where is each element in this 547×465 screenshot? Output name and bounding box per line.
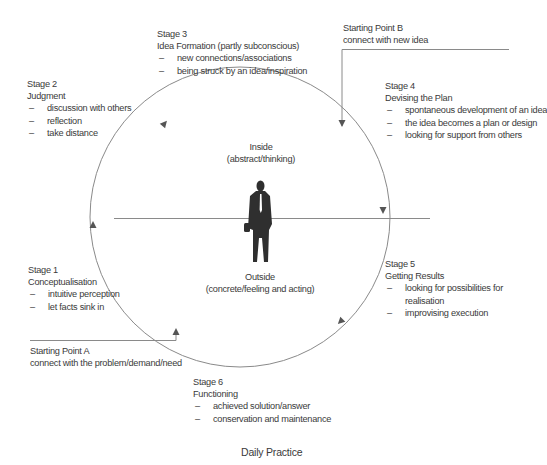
list-item: achieved solution/answer <box>193 400 331 412</box>
stage-3-list: new connections/associations being struc… <box>157 52 307 76</box>
inside-label: Inside (abstract/thinking) <box>206 141 316 165</box>
list-item: intuitive perception <box>28 288 120 300</box>
list-item: the idea becomes a plan or design <box>385 117 547 129</box>
stage-4-block: Stage 4 Devising the Plan spontaneous de… <box>385 80 547 141</box>
inside-subtitle: (abstract/thinking) <box>206 153 316 165</box>
list-item: looking for possibilities for <box>385 282 503 294</box>
stage-6-label: Stage 6 <box>193 376 331 388</box>
stage-4-list: spontaneous development of an idea the i… <box>385 104 547 141</box>
arrow-up-icon <box>173 328 180 335</box>
stage-5-title: Getting Results <box>385 270 503 282</box>
stage-2-label: Stage 2 <box>27 78 131 90</box>
cycle-circle <box>90 67 390 367</box>
list-item: take distance <box>27 127 131 139</box>
list-item: reflection <box>27 115 131 127</box>
starting-point-b-block: Starting Point B connect with new idea <box>343 22 428 46</box>
stage-2-title: Judgment <box>27 90 131 102</box>
outside-label: Outside (concrete/feeling and acting) <box>195 271 325 295</box>
stage-6-title: Functioning <box>193 388 331 400</box>
diagram-title: Daily Practice <box>241 446 302 458</box>
outside-title: Outside <box>195 271 325 283</box>
stage-1-label: Stage 1 <box>28 264 120 276</box>
stage-6-block: Stage 6 Functioning achieved solution/an… <box>193 376 331 425</box>
stage-5-list: looking for possibilities for realisatio… <box>385 282 503 319</box>
list-item: let facts sink in <box>28 301 120 313</box>
starting-point-b-label: Starting Point B <box>343 22 428 34</box>
stage-3-title: Idea Formation (partly subconscious) <box>157 40 307 52</box>
list-item: new connections/associations <box>157 52 307 64</box>
outside-subtitle: (concrete/feeling and acting) <box>195 283 325 295</box>
stage-5-block: Stage 5 Getting Results looking for poss… <box>385 258 503 319</box>
stage-1-block: Stage 1 Conceptualisation intuitive perc… <box>28 264 120 313</box>
starting-point-a-connector <box>30 330 176 341</box>
stage-6-list: achieved solution/answer conservation an… <box>193 400 331 424</box>
list-item: spontaneous development of an idea <box>385 104 547 116</box>
list-item: conservation and maintenance <box>193 413 331 425</box>
starting-point-a-label: Starting Point A <box>30 345 182 357</box>
arrow-down-icon <box>339 120 346 127</box>
list-item: improvising execution <box>385 307 503 319</box>
stage-4-title: Devising the Plan <box>385 92 547 104</box>
stage-1-list: intuitive perception let facts sink in <box>28 288 120 312</box>
list-item: discussion with others <box>27 102 131 114</box>
list-item-continuation: realisation <box>385 295 503 307</box>
starting-point-a-text: connect with the problem/demand/need <box>30 357 182 369</box>
stage-4-label: Stage 4 <box>385 80 547 92</box>
arrow-up-right-icon <box>160 118 170 128</box>
stage-2-list: discussion with others reflection take d… <box>27 102 131 139</box>
list-item: being struck by an idea/inspiration <box>157 65 307 77</box>
starting-point-a-block: Starting Point A connect with the proble… <box>30 345 182 369</box>
person-silhouette-icon <box>244 181 272 263</box>
stage-3-label: Stage 3 <box>157 28 307 40</box>
inside-title: Inside <box>206 141 316 153</box>
list-item: looking for support from others <box>385 129 547 141</box>
arrow-down-icon <box>380 207 387 214</box>
stage-2-block: Stage 2 Judgment discussion with others … <box>27 78 131 139</box>
stage-1-title: Conceptualisation <box>28 276 120 288</box>
stage-3-block: Stage 3 Idea Formation (partly subconsci… <box>157 28 307 77</box>
stage-5-label: Stage 5 <box>385 258 503 270</box>
starting-point-b-text: connect with new idea <box>343 34 428 46</box>
